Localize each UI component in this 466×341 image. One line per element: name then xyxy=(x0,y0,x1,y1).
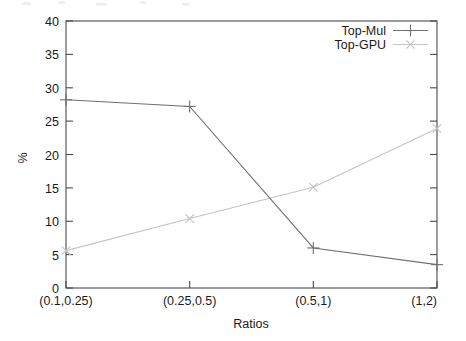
data-point-marker xyxy=(185,214,194,223)
x-tick-1: (0.25,0.5) xyxy=(163,281,217,308)
x-tick-label: (0.25,0.5) xyxy=(163,294,217,308)
x-tick-label: (1,2) xyxy=(411,294,437,308)
y-tick-30: 30 xyxy=(45,82,437,96)
y-tick-0: 0 xyxy=(52,282,437,296)
x-tick-3: (1,2) xyxy=(411,281,437,308)
y-axis: 40 35 30 25 20 xyxy=(45,15,437,296)
y-tick-label: 15 xyxy=(45,182,59,196)
x-tick-label: (0.1,0.25) xyxy=(39,294,93,308)
y-tick-5: 5 xyxy=(52,249,437,263)
y-tick-25: 25 xyxy=(45,115,437,129)
line-chart: 40 35 30 25 20 xyxy=(0,0,466,341)
scan-artifacts xyxy=(22,1,190,6)
x-tick-0: (0.1,0.25) xyxy=(39,281,93,308)
top-mul-markers xyxy=(60,94,443,271)
y-tick-label: 40 xyxy=(45,15,59,29)
series-top-mul xyxy=(60,94,443,271)
y-tick-label: 25 xyxy=(45,115,59,129)
data-point-marker xyxy=(309,183,318,192)
data-point-marker xyxy=(60,94,72,106)
top-gpu-markers xyxy=(62,124,442,255)
y-tick-label: 30 xyxy=(45,82,59,96)
chart-figure: 40 35 30 25 20 xyxy=(0,0,466,341)
data-point-marker xyxy=(431,259,443,271)
legend-label-top-gpu: Top-GPU xyxy=(335,38,386,52)
y-tick-10: 10 xyxy=(45,215,437,229)
y-tick-label: 35 xyxy=(45,48,59,62)
top-mul-line xyxy=(66,100,437,265)
y-tick-15: 15 xyxy=(45,182,437,196)
y-tick-label: 10 xyxy=(45,215,59,229)
y-tick-label: 20 xyxy=(45,149,59,163)
top-gpu-line xyxy=(66,128,437,250)
x-axis: (0.1,0.25) (0.25,0.5) (0.5,1) (1,2) xyxy=(39,281,437,308)
legend: Top-Mul Top-GPU xyxy=(335,24,428,52)
x-axis-title: Ratios xyxy=(233,317,268,331)
series-top-gpu xyxy=(62,124,442,255)
y-tick-20: 20 xyxy=(45,149,437,163)
y-tick-label: 5 xyxy=(52,249,59,263)
legend-label-top-mul: Top-Mul xyxy=(342,24,386,38)
legend-marker-plus-icon xyxy=(405,25,417,37)
x-tick-label: (0.5,1) xyxy=(295,294,331,308)
x-tick-2: (0.5,1) xyxy=(295,281,331,308)
y-axis-title: % xyxy=(16,152,30,163)
